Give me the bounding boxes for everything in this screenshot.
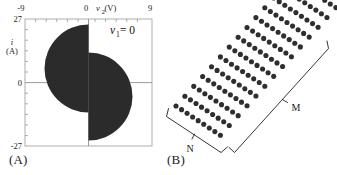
x-tick-zero: 0 bbox=[84, 3, 88, 13]
cell-dot bbox=[282, 3, 287, 8]
cell-dot bbox=[241, 38, 246, 43]
cell-dot bbox=[261, 36, 266, 41]
cell-dot bbox=[250, 29, 255, 34]
cell-dot bbox=[253, 93, 258, 98]
cell-dot bbox=[328, 1, 333, 6]
cell-dot bbox=[173, 103, 178, 108]
dimension-label-m: M bbox=[292, 102, 301, 113]
cell-dot bbox=[228, 92, 233, 97]
y-tick-zero: 0 bbox=[18, 78, 22, 88]
x-tick-min: -9 bbox=[17, 3, 24, 13]
cell-dot bbox=[190, 114, 195, 119]
cell-dot bbox=[302, 0, 307, 5]
cell-dot bbox=[307, 35, 312, 40]
cell-dot bbox=[231, 79, 236, 84]
cell-dot bbox=[237, 82, 242, 87]
cell-dot bbox=[244, 25, 249, 30]
cell-dot bbox=[229, 62, 234, 67]
cell-dot bbox=[316, 25, 321, 30]
cell-dot bbox=[262, 84, 267, 89]
cell-dot bbox=[219, 102, 224, 107]
cell-dot bbox=[266, 70, 271, 75]
cell-dot bbox=[268, 9, 273, 14]
panel-a: v 2 (V) -9 0 9 i (A) 27 0 -27 bbox=[0, 0, 170, 175]
cell-dot bbox=[218, 133, 223, 138]
cell-dot bbox=[213, 98, 218, 103]
cell-dot bbox=[270, 26, 275, 31]
panel-b: N M (B) bbox=[165, 0, 337, 175]
cell-dot bbox=[218, 54, 223, 59]
cell-dot bbox=[272, 43, 277, 48]
cell-dot bbox=[220, 71, 225, 76]
cell-dot bbox=[333, 5, 337, 10]
cell-dot bbox=[222, 89, 227, 94]
cell-dot bbox=[243, 56, 248, 61]
cell-dot bbox=[242, 86, 247, 91]
annotation-v1-eq: = 0 bbox=[120, 24, 135, 36]
cell-dot bbox=[246, 73, 251, 78]
cell-dot bbox=[227, 123, 232, 128]
cell-dot bbox=[236, 35, 241, 40]
cell-dot bbox=[271, 0, 276, 1]
y-axis-label-unit: (A) bbox=[6, 46, 18, 56]
cell-dot bbox=[206, 78, 211, 83]
cell-dot bbox=[252, 46, 257, 51]
cell-dot bbox=[279, 16, 284, 21]
cell-dot bbox=[301, 31, 306, 36]
cell-dot bbox=[200, 74, 205, 79]
cell-dot bbox=[278, 47, 283, 52]
cell-dot bbox=[271, 74, 276, 79]
cell-dot bbox=[260, 66, 265, 71]
cell-dot bbox=[276, 30, 281, 35]
cell-dot bbox=[227, 45, 232, 50]
cell-dot bbox=[257, 80, 262, 85]
cell-dot bbox=[212, 129, 217, 134]
cell-dot bbox=[211, 81, 216, 86]
cell-dot bbox=[233, 96, 238, 101]
cell-dot bbox=[230, 109, 235, 114]
cell-dot bbox=[256, 32, 261, 37]
cell-dot bbox=[292, 41, 297, 46]
cell-dot bbox=[259, 19, 264, 24]
cell-dot bbox=[196, 118, 201, 123]
cell-dot bbox=[263, 53, 268, 58]
cell-dot bbox=[232, 48, 237, 53]
cell-dot bbox=[210, 112, 215, 117]
cell-dot bbox=[319, 11, 324, 16]
cell-dot bbox=[185, 111, 190, 116]
cell-dot bbox=[188, 97, 193, 102]
cell-dot bbox=[310, 21, 315, 26]
x-axis-ticks bbox=[36, 19, 138, 22]
cell-dot bbox=[197, 87, 202, 92]
cell-dot bbox=[264, 22, 269, 27]
cell-dot bbox=[288, 6, 293, 11]
cell-dot bbox=[280, 64, 285, 69]
cell-dot bbox=[221, 119, 226, 124]
cell-dot bbox=[284, 20, 289, 25]
cell-dot bbox=[247, 42, 252, 47]
cell-dot bbox=[298, 44, 303, 49]
cell-dot bbox=[223, 58, 228, 63]
cell-dot bbox=[273, 13, 278, 18]
cell-dot bbox=[201, 122, 206, 127]
cell-dot bbox=[235, 65, 240, 70]
cell-dot bbox=[293, 10, 298, 15]
cell-dot bbox=[182, 94, 187, 99]
cell-dot bbox=[244, 103, 249, 108]
n-tick bbox=[192, 134, 195, 139]
cell-array-dots bbox=[173, 0, 337, 138]
cell-dot bbox=[281, 33, 286, 38]
cell-dot bbox=[283, 51, 288, 56]
cell-dot bbox=[238, 52, 243, 57]
cell-dot bbox=[287, 37, 292, 42]
panel-b-label: (B) bbox=[167, 152, 185, 168]
cell-dot bbox=[236, 113, 241, 118]
cell-dot bbox=[179, 107, 184, 112]
cell-dot bbox=[274, 60, 279, 65]
y-tick-min: -27 bbox=[11, 141, 22, 151]
panel-a-label: (A) bbox=[9, 152, 28, 168]
m-tick bbox=[283, 100, 288, 103]
cell-dot bbox=[191, 84, 196, 89]
cell-dot bbox=[269, 57, 274, 62]
cell-dot bbox=[226, 75, 231, 80]
